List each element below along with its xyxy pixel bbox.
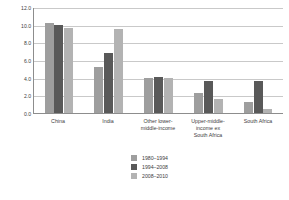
x-axis-category-label-line: South Africa [234,118,282,125]
bar [263,109,272,113]
y-axis-tick-label: 4.0 [12,76,31,81]
x-axis-category-label-line: India [84,118,132,125]
bar [94,67,103,113]
x-axis-category-label: China [33,118,83,140]
x-axis-category-label-line: middle-income [134,125,182,132]
bar [114,29,123,113]
bar [194,93,203,113]
legend-item: 1994–2008 [131,164,168,170]
bar [54,25,63,113]
legend-item: 1980–1994 [131,155,168,161]
bar [164,78,173,113]
legend-swatch [131,164,137,170]
bar [45,23,54,113]
bar-group [233,8,283,113]
bar-group [183,8,233,113]
x-axis-category-label: South Africa [233,118,283,140]
bar [244,102,253,113]
legend-label: 2008–2010 [142,173,168,179]
bar-groups [34,8,283,113]
legend-item: 2008–2010 [131,173,168,179]
x-axis-category-label: India [83,118,133,140]
y-axis-tick-label: 10.0 [12,23,31,28]
x-axis-category-label: Upper-middle-income exSouth Africa [183,118,233,140]
x-axis-category-labels: ChinaIndiaOther lower-middle-incomeUpper… [33,118,283,140]
bar [204,81,213,113]
y-axis-tick-label: 8.0 [12,41,31,46]
bar [214,99,223,113]
chart-legend: 1980–19941994–20082008–2010 [131,155,168,179]
bar-group [134,8,184,113]
y-axis-tick-labels: 0.02.04.06.08.010.012.0 [12,8,31,114]
x-axis-category-label-line: Other lower- [134,118,182,125]
bar [64,28,73,113]
bar [104,53,113,113]
y-axis-tick-label: 0.0 [12,112,31,117]
bar [144,78,153,113]
bar [154,77,163,113]
x-axis-category-label-line: China [34,118,82,125]
x-axis-category-label: Other lower-middle-income [133,118,183,140]
x-axis-category-label-line: South Africa [184,132,232,139]
y-axis-tick-label: 6.0 [12,59,31,64]
bar [254,81,263,113]
legend-swatch [131,173,137,179]
bar-chart-figure: Average annual percentage change 0.02.04… [0,0,289,200]
bar-group [34,8,84,113]
x-axis-category-label-line: income ex [184,125,232,132]
legend-swatch [131,155,137,161]
plot-area [33,8,283,114]
y-axis-tick-label: 12.0 [12,6,31,11]
y-axis-tick-label: 2.0 [12,94,31,99]
x-axis-category-label-line: Upper-middle- [184,118,232,125]
bar-group [84,8,134,113]
legend-label: 1994–2008 [142,164,168,170]
legend-label: 1980–1994 [142,155,168,161]
